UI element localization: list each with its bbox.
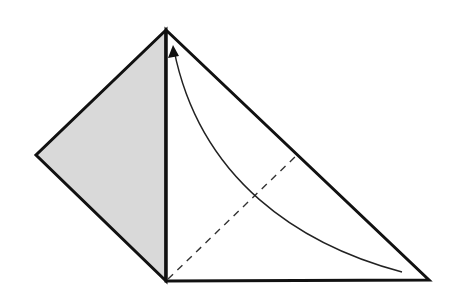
shaded-flap (36, 30, 166, 281)
origami-diagram (0, 0, 453, 298)
white-triangle (166, 30, 429, 281)
